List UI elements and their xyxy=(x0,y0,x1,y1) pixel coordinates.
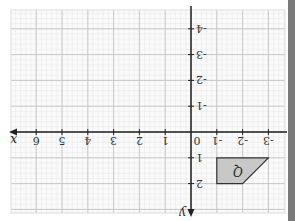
y-tick-label: -3 xyxy=(196,48,207,61)
coordinate-diagram: Qxy-3-2-1012345621-1-2-3-4 xyxy=(0,0,295,221)
x-tick-label: -2 xyxy=(237,134,248,147)
y-tick-label: 2 xyxy=(196,177,203,190)
x-tick-label: 6 xyxy=(33,134,40,147)
y-tick-label: -2 xyxy=(196,73,207,86)
y-tick-label: -1 xyxy=(196,99,207,112)
x-tick-label: 5 xyxy=(59,134,66,147)
x-tick-label: 3 xyxy=(110,134,117,147)
y-axis-label: y xyxy=(179,206,187,220)
grid-canvas: Qxy-3-2-1012345621-1-2-3-4 xyxy=(0,0,295,221)
left-edge-bar xyxy=(288,0,295,221)
x-tick-label: 1 xyxy=(162,134,169,147)
x-tick-label: 2 xyxy=(136,134,143,147)
y-tick-label: 1 xyxy=(196,151,203,164)
x-tick-label: 4 xyxy=(84,134,91,147)
x-tick-label: 0 xyxy=(194,134,201,147)
y-tick-label: -4 xyxy=(196,22,207,35)
x-tick-label: -3 xyxy=(263,134,274,147)
shape-label: Q xyxy=(233,164,243,178)
x-tick-label: -1 xyxy=(211,134,222,147)
x-axis-label: x xyxy=(10,133,17,147)
